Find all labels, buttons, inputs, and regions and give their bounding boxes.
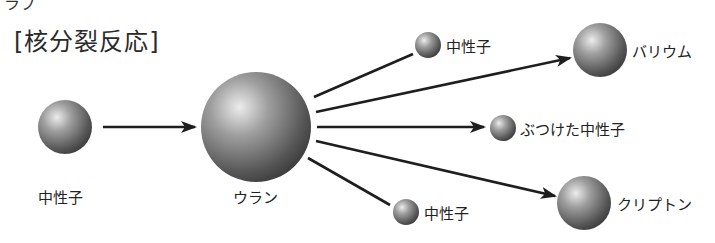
barium-label: バリウム — [632, 40, 692, 61]
incoming-neutron-label: 中性子 — [38, 186, 83, 207]
arrow-to-krypton — [316, 141, 555, 196]
uranium-sphere — [201, 72, 311, 182]
incoming-neutron-sphere — [38, 100, 92, 154]
arrow-to-barium — [316, 58, 570, 112]
hit-neutron-label: ぶつけた中性子 — [520, 118, 625, 139]
released-neutron-top-label: 中性子 — [446, 35, 491, 56]
krypton-label: クリプトン — [617, 193, 692, 214]
released-neutron-bottom-label: 中性子 — [424, 202, 469, 223]
uranium-label: ウラン — [233, 186, 278, 207]
released-neutron-top-sphere — [415, 32, 441, 58]
line-to-neutron-top — [314, 54, 413, 97]
hit-neutron-sphere — [490, 115, 516, 141]
line-to-neutron-bottom — [308, 158, 390, 205]
diagram-title: [核分裂反応] — [14, 22, 160, 57]
released-neutron-bottom-sphere — [393, 199, 419, 225]
krypton-sphere — [557, 176, 611, 230]
barium-sphere — [573, 23, 627, 77]
cropped-heading-fragment: ラブ — [4, 0, 36, 14]
